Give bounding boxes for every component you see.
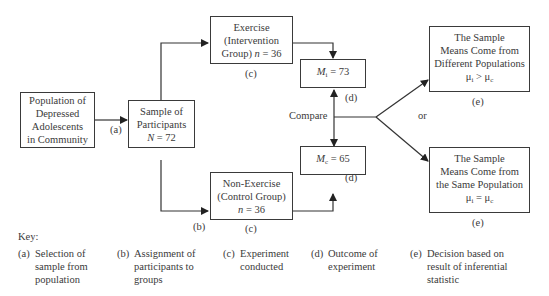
same-formula: μi = μc (466, 191, 494, 208)
control-line: Non-Exercise (223, 177, 281, 190)
key-item-e: (e) Decision based on result of inferent… (410, 247, 507, 286)
mean-intervention-value: Mi = 73 (317, 65, 349, 82)
different-line: The Sample (454, 31, 504, 44)
exercise-line: Exercise (233, 21, 269, 34)
different-line: Means Come from (440, 44, 519, 57)
exercise-line: (Intervention (224, 34, 279, 47)
compare-label: Compare (289, 110, 328, 122)
different-populations-box: The Sample Means Come from Different Pop… (429, 26, 530, 92)
population-line: Population of (29, 94, 86, 107)
mean-control-box: Mc = 65 (300, 146, 366, 175)
label-d-top: (d) (345, 92, 357, 104)
population-line: in Community (27, 133, 88, 146)
population-line: Adolescents (32, 120, 83, 133)
population-box: Population of Depressed Adolescents in C… (20, 92, 95, 148)
key-tag: (d) (311, 247, 323, 260)
control-line: (Control Group) (217, 190, 286, 203)
label-c-top: (c) (245, 68, 257, 80)
sample-line: Participants (137, 118, 187, 131)
sample-box: Sample of Participants N = 72 (128, 100, 195, 148)
label-c-bottom: (c) (245, 223, 257, 235)
label-a: (a) (110, 124, 122, 136)
label-e-bottom: (e) (472, 217, 484, 229)
or-label: or (418, 110, 427, 122)
same-population-box: The Sample Means Come from the Same Popu… (429, 147, 530, 213)
key-tag: (a) (18, 247, 30, 260)
label-b: (b) (193, 221, 205, 233)
different-formula: μi > μc (466, 70, 494, 87)
exercise-n: Group) n = 36 (222, 47, 282, 60)
key-tag: (e) (410, 247, 422, 260)
key-title: Key: (18, 231, 38, 242)
key-item-d: (d) Outcome of experiment (311, 247, 378, 273)
key-tag: (b) (117, 247, 129, 260)
key-item-b: (b) Assignment of participants to groups (117, 247, 196, 286)
same-line: The Sample (454, 152, 504, 165)
mean-intervention-box: Mi = 73 (300, 59, 366, 88)
same-line: the Same Population (436, 178, 523, 191)
label-d-bottom: (d) (345, 172, 357, 184)
key-item-c: (c) Experiment conducted (223, 247, 289, 273)
control-n: n = 36 (238, 203, 265, 216)
sample-n: N = 72 (147, 131, 176, 144)
label-e-top: (e) (472, 96, 484, 108)
key-tag: (c) (223, 247, 235, 260)
exercise-box: Exercise (Intervention Group) n = 36 (210, 16, 293, 64)
population-line: Depressed (36, 107, 80, 120)
same-line: Means Come from (440, 165, 519, 178)
sample-line: Sample of (140, 105, 183, 118)
control-box: Non-Exercise (Control Group) n = 36 (210, 172, 293, 220)
mean-control-value: Mc = 65 (316, 152, 350, 169)
key-item-a: (a) Selection of sample from population (18, 247, 88, 286)
different-line: Different Populations (434, 57, 525, 70)
